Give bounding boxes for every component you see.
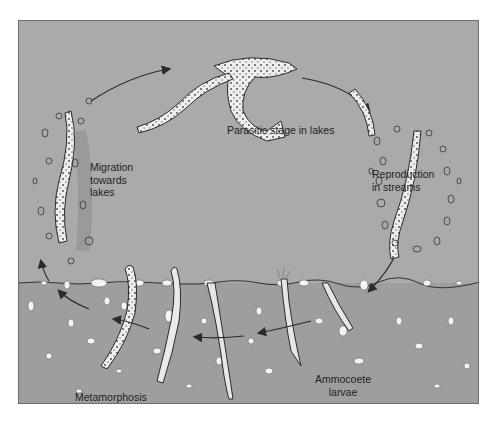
migrating-lamprey [55,111,85,251]
label-metamorphosis: Metamorphosis [75,391,147,404]
label-ammocoete-larvae: Ammocoete larvae [315,373,371,398]
label-larvae-line-1: Ammocoete [315,373,371,386]
label-larvae-line-2: larvae [315,386,371,399]
lifecycle-illustration [19,21,479,404]
label-reproduction: Reproduction in streams [372,168,434,193]
label-migration: Migration towards lakes [90,161,133,199]
label-reproduction-line-2: in streams [372,181,434,194]
diagram-frame: Parasitic stage in lakes Reproduction in… [18,20,479,404]
label-migration-line-1: Migration [90,161,133,174]
label-migration-line-2: towards [90,174,133,187]
label-parasitic-stage: Parasitic stage in lakes [227,124,334,137]
label-migration-line-3: lakes [90,186,133,199]
label-reproduction-line-1: Reproduction [372,168,434,181]
